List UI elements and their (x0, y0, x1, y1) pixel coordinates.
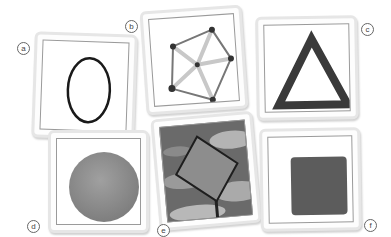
panel-f (259, 127, 362, 232)
panel-f-frame (267, 135, 354, 223)
oval-shape (40, 41, 129, 133)
label-b: b (125, 20, 138, 33)
square-shape (268, 136, 353, 224)
diamond-sign-photo (160, 120, 253, 223)
circle-shape (57, 139, 141, 225)
panel-b (139, 5, 248, 116)
triangle-shape (264, 24, 351, 113)
panel-d-frame (56, 138, 141, 225)
panel-d (48, 130, 149, 233)
panel-e (150, 111, 261, 231)
panel-c (255, 15, 359, 121)
stick-pentagon-shape (149, 14, 240, 107)
label-e: e (157, 224, 170, 237)
label-d: d (27, 220, 40, 233)
label-a: a (17, 42, 30, 55)
label-f: f (364, 219, 377, 232)
panel-a-frame (39, 40, 129, 133)
label-c: c (361, 23, 374, 36)
panel-a (31, 31, 138, 141)
panel-e-frame (159, 119, 253, 222)
panel-b-frame (148, 13, 240, 107)
panel-c-frame (263, 23, 351, 112)
